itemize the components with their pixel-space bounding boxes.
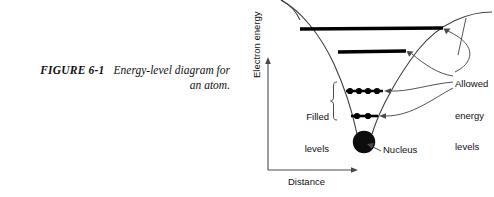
y-axis-arrowhead [265,57,271,64]
filled-levels-label: Filled levels [297,91,329,175]
leader-arrowhead-level-2 [384,88,391,94]
electron-dot [374,88,380,94]
nucleus-label: Nucleus [383,145,417,156]
electron-dot [356,88,362,94]
leader-line-allowed-top [458,18,466,55]
leader-arrow-level-3 [412,54,453,76]
figure-page: FIGURE 6-1Energy-level diagram for an at… [0,0,494,197]
allowed-label-line3: levels [455,142,494,153]
leader-arrow-level-2 [391,82,453,91]
electron-dot [365,113,371,119]
electron-dot [354,113,360,119]
energy-level-3 [338,51,406,52]
allowed-label-line2: energy [455,111,494,122]
allowed-label-line1: Allowed [455,79,494,90]
energy-level-4 [300,28,443,29]
leader-arrow-level-1 [386,88,453,116]
filled-levels-brace [331,82,338,120]
allowed-energy-levels-label: Allowed energy levels [455,58,494,174]
nucleus-circle [353,131,375,153]
potential-well-left-flare [281,0,300,20]
electron-dot [365,88,371,94]
filled-levels-label-line1: Filled [297,112,329,123]
x-axis-arrowhead [351,167,358,173]
filled-levels-label-line2: levels [297,144,329,155]
y-axis-label-text: Electron energy [252,11,263,78]
x-axis-label: Distance [288,177,325,188]
energy-level-diagram [0,0,494,197]
electron-dot [347,88,353,94]
